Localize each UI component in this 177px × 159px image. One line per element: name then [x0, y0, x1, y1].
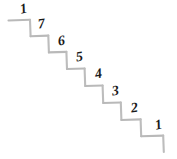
staircase-strokes — [9, 20, 164, 152]
tread-6 — [103, 103, 121, 104]
riser-5 — [103, 86, 104, 104]
tread-7 — [121, 119, 140, 120]
riser-1 — [30, 20, 31, 36]
tread-8 — [141, 136, 163, 137]
riser-2 — [48, 36, 49, 53]
riser-7 — [141, 119, 142, 136]
tread-3 — [49, 52, 67, 53]
riser-3 — [66, 52, 67, 69]
staircase-figure: 1 7 6 5 4 3 2 1 — [0, 0, 177, 159]
riser-8 — [163, 136, 164, 152]
riser-4 — [85, 69, 86, 87]
tread-5 — [85, 86, 102, 87]
staircase-polyline — [0, 0, 177, 159]
tread-4 — [67, 69, 85, 70]
tread-1 — [9, 20, 31, 21]
tread-2 — [31, 36, 49, 37]
riser-6 — [121, 103, 122, 121]
